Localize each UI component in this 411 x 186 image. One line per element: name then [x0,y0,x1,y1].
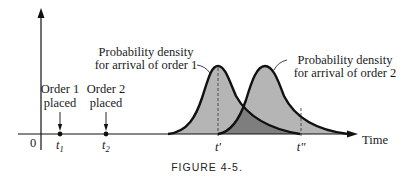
figure-caption: FIGURE 4-5. [171,161,243,173]
origin-label: 0 [30,136,36,150]
order1-arrow-head-icon [58,124,62,131]
density1-label-line1: Probability density [99,45,195,59]
density2-label-line2: for arrival of order 2 [294,66,397,80]
order1-label-line1: Order 1 [41,82,80,96]
t1-point [58,132,63,137]
y-axis-arrow-icon [38,8,45,18]
figure-canvas: 0 Time Order 1 placed Order 2 placed Pro… [0,0,411,186]
order2-arrow-head-icon [104,124,108,131]
order2-label-line1: Order 2 [87,82,126,96]
t-prime-tick-label: t′ [215,140,221,154]
density2-label-line1: Probability density [298,53,394,67]
x-axis-label: Time [362,133,388,147]
density1-label-line2: for arrival of order 1 [95,58,198,72]
order1-label-line2: placed [44,96,77,110]
t1-tick-label: t1 [56,138,64,154]
density2-leader-line [274,60,287,70]
t2-tick-label: t2 [102,138,110,154]
t2-point [104,132,109,137]
x-axis-arrow-icon [347,131,358,138]
density1-leader-line [197,65,210,73]
t-double-prime-tick-label: t″ [297,140,306,154]
order2-label-line2: placed [90,96,123,110]
